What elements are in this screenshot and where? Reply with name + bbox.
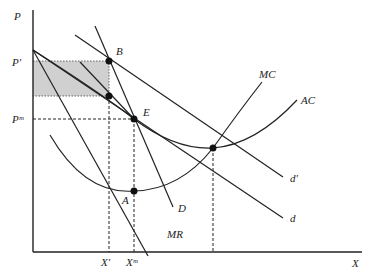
d-label: d [290, 212, 296, 224]
shaded-profit-area [33, 61, 109, 96]
x-prime-label: X′ [100, 256, 111, 268]
d-prime-label: d′ [290, 172, 299, 184]
point-a [131, 188, 138, 195]
d-prime-curve [75, 35, 283, 177]
point-a-label: A [121, 194, 129, 206]
mr-label: MR [166, 228, 183, 240]
point-e-label: E [142, 106, 150, 118]
point-b [106, 58, 113, 65]
p-prime-label: P′ [11, 56, 22, 68]
mc-label: MC [258, 68, 276, 80]
demand-D-label: D [177, 202, 186, 214]
point-ac-min [210, 145, 217, 152]
point-e [131, 116, 138, 123]
ac-label: AC [300, 94, 316, 106]
monopolistic-competition-diagram: P X P′ Pᵐ X′ Xᵐ MC AC d′ d D MR B E A [0, 0, 372, 278]
xm-label: Xᵐ [125, 256, 138, 268]
point-shaded-corner [106, 93, 113, 100]
point-b-label: B [116, 45, 123, 57]
pm-label: Pᵐ [11, 113, 24, 125]
x-axis-label: X [351, 257, 360, 269]
y-axis-label: P [13, 10, 21, 22]
